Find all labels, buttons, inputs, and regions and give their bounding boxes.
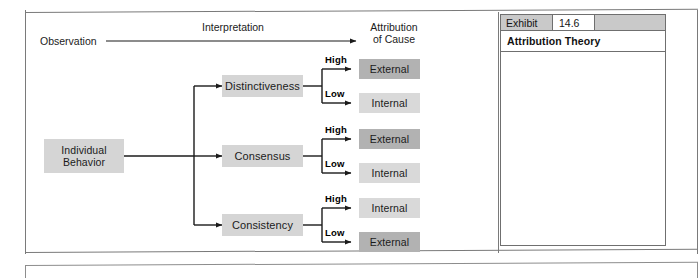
factor-box-consensus: Consensus — [222, 145, 303, 167]
footer-strip-right — [697, 262, 698, 278]
attribution-of-cause-label: Attribution of Cause — [356, 21, 432, 45]
observation-label: Observation — [40, 35, 97, 47]
exhibit-title-row: Attribution Theory — [500, 31, 666, 52]
exhibit-title: Attribution Theory — [507, 35, 600, 47]
footer-strip-top — [25, 262, 698, 266]
scanned-page: Observation Interpretation Attribution o… — [0, 0, 700, 278]
individual-behavior-line-1: Individual — [61, 144, 106, 157]
exhibit-label: Exhibit — [501, 15, 553, 30]
branch-label-consistency-low: Low — [325, 227, 345, 238]
factor-box-distinctiveness: Distinctiveness — [222, 75, 303, 97]
factor-box-consistency: Consistency — [222, 214, 303, 236]
attribution-theory-diagram: Observation Interpretation Attribution o… — [26, 13, 498, 253]
attribution-line-2: of Cause — [356, 33, 432, 45]
branch-label-consensus-low: Low — [325, 158, 345, 169]
outcome-box-consensus-high: External — [359, 129, 420, 149]
panel-divider — [498, 12, 499, 253]
exhibit-body — [500, 52, 666, 246]
exhibit-panel: Exhibit 14.6 Attribution Theory — [500, 14, 666, 246]
footer-strip-left — [25, 265, 26, 278]
outcome-box-distinctiveness-high: External — [359, 59, 420, 79]
branch-label-consistency-high: High — [325, 193, 347, 204]
outcome-box-distinctiveness-low: Internal — [359, 93, 420, 113]
interpretation-label: Interpretation — [178, 21, 288, 33]
branch-label-distinctiveness-high: High — [325, 54, 347, 65]
outcome-box-consensus-low: Internal — [359, 163, 420, 183]
page-border-right — [697, 10, 698, 254]
branch-label-consensus-high: High — [325, 124, 347, 135]
exhibit-number: 14.6 — [553, 15, 595, 30]
exhibit-header-row: Exhibit 14.6 — [500, 14, 666, 31]
individual-behavior-line-2: Behavior — [63, 156, 105, 169]
exhibit-header-filler — [595, 15, 665, 30]
outcome-box-consistency-low: External — [359, 232, 420, 252]
branch-label-distinctiveness-low: Low — [325, 88, 345, 99]
outcome-box-consistency-high: Internal — [359, 198, 420, 218]
attribution-line-1: Attribution — [356, 21, 432, 33]
individual-behavior-box: Individual Behavior — [44, 139, 124, 173]
